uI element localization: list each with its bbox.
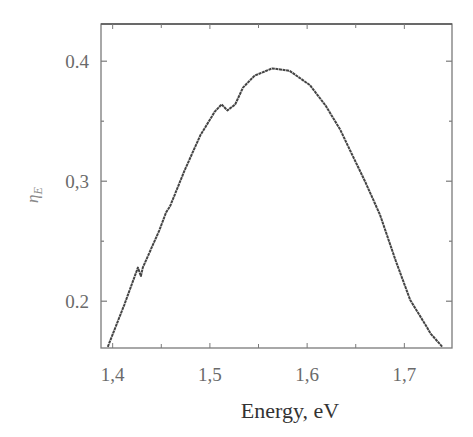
plot-frame <box>101 24 452 348</box>
x-tick-label: 1,6 <box>295 364 319 385</box>
svg-text:ηE: ηE <box>23 186 45 202</box>
data-series-line <box>108 68 443 346</box>
y-axis-title-main: η <box>23 194 42 202</box>
y-tick-label: 0,3 <box>65 171 89 192</box>
x-axis-ticks <box>113 24 405 348</box>
y-tick-label: 0.4 <box>65 51 89 72</box>
x-axis-tick-labels: 1,41,51,61,7 <box>101 364 416 385</box>
y-axis-tick-labels: 0.20,30.4 <box>65 51 89 312</box>
x-tick-label: 1,4 <box>101 364 125 385</box>
x-tick-label: 1,5 <box>198 364 222 385</box>
y-axis-ticks <box>101 61 452 301</box>
chart: 1,41,51,61,7 0.20,30.4 Energy, eV ηE <box>0 0 473 437</box>
y-axis-title-sub: E <box>31 186 45 195</box>
y-axis-title: ηE <box>23 186 45 202</box>
x-tick-label: 1,7 <box>392 364 416 385</box>
x-axis-title: Energy, eV <box>241 398 339 423</box>
plot-border <box>101 24 452 348</box>
y-tick-label: 0.2 <box>65 291 89 312</box>
